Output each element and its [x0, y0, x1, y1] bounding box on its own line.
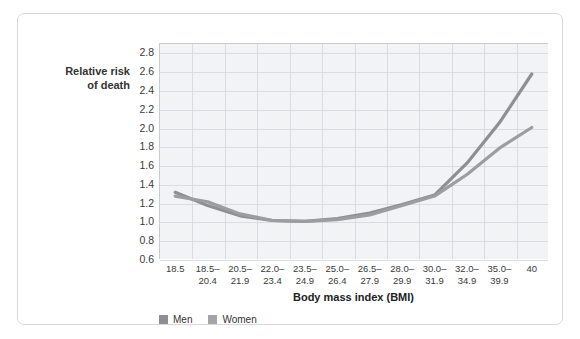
- x-axis-tick-label-line2: 29.9: [390, 275, 414, 287]
- x-axis-tick-label-line2: 20.4: [196, 275, 220, 287]
- x-axis-tick-label-line2: 34.9: [455, 275, 479, 287]
- x-axis-tick-label-line1: 32.0–: [455, 263, 479, 275]
- legend-label: Men: [173, 314, 192, 325]
- x-axis-tick-label-line2: 23.4: [261, 275, 285, 287]
- x-axis-tick-label-line1: 18.5: [166, 263, 185, 275]
- x-axis-tick-label-line2: 27.9: [358, 275, 382, 287]
- x-axis-tick-label-line2: 31.9: [423, 275, 447, 287]
- gridline-horizontal: [160, 260, 548, 261]
- y-axis-tick-label: 1.0: [118, 215, 154, 227]
- x-axis-tick-label-line1: 20.5–: [228, 263, 252, 275]
- x-axis-tick-label: 23.5–24.9: [293, 263, 317, 287]
- x-axis-tick-label: 25.0–26.4: [325, 263, 349, 287]
- y-axis-tick-label: 1.8: [118, 140, 154, 152]
- y-axis-tick-label: 2.4: [118, 84, 154, 96]
- x-axis-tick-label-line1: 23.5–: [293, 263, 317, 275]
- x-axis-tick-label-line1: 18.5–: [196, 263, 220, 275]
- x-axis-tick-label-line1: 25.0–: [325, 263, 349, 275]
- y-axis-tick-label: 2.0: [118, 122, 154, 134]
- x-axis-tick-labels: 18.518.5–20.420.5–21.922.0–23.423.5–24.9…: [159, 263, 548, 293]
- y-axis-tick-label: 2.2: [118, 103, 154, 115]
- chart-card: Relative risk of death 0.60.81.01.21.41.…: [17, 13, 563, 325]
- x-axis-tick-label-line1: 35.0–: [487, 263, 511, 275]
- plot-area: [159, 43, 548, 259]
- x-axis-tick-label-line1: 22.0–: [261, 263, 285, 275]
- x-axis-tick-label-line2: 21.9: [228, 275, 252, 287]
- legend-item-men[interactable]: Men: [159, 314, 192, 325]
- y-axis-tick-label: 0.6: [118, 253, 154, 265]
- series-line-men: [175, 74, 532, 221]
- x-axis-tick-label-line1: 30.0–: [423, 263, 447, 275]
- y-axis-tick-label: 2.6: [118, 65, 154, 77]
- y-axis-tick-label: 1.2: [118, 197, 154, 209]
- x-axis-title: Body mass index (BMI): [159, 291, 548, 303]
- y-axis-tick-label: 0.8: [118, 234, 154, 246]
- x-axis-tick-label-line1: 26.5–: [358, 263, 382, 275]
- x-axis-tick-label-line2: 39.9: [487, 275, 511, 287]
- legend-label: Women: [222, 314, 256, 325]
- x-axis-tick-label: 20.5–21.9: [228, 263, 252, 287]
- series-lines: [159, 43, 548, 259]
- x-axis-tick-label: 30.0–31.9: [423, 263, 447, 287]
- legend-item-women[interactable]: Women: [208, 314, 256, 325]
- legend-swatch-icon: [159, 315, 168, 324]
- x-axis-tick-label: 35.0–39.9: [487, 263, 511, 287]
- x-axis-tick-label: 18.5–20.4: [196, 263, 220, 287]
- series-line-women: [175, 128, 532, 222]
- y-axis-tick-labels: 0.60.81.01.21.41.61.82.02.22.42.62.8: [118, 43, 154, 259]
- legend-swatch-icon: [208, 315, 217, 324]
- y-axis-tick-label: 1.4: [118, 178, 154, 190]
- x-axis-tick-label-line2: 26.4: [325, 275, 349, 287]
- x-axis-tick-label: 32.0–34.9: [455, 263, 479, 287]
- x-axis-tick-label: 22.0–23.4: [261, 263, 285, 287]
- x-axis-tick-label-line2: 24.9: [293, 275, 317, 287]
- x-axis-tick-label-line1: 28.0–: [390, 263, 414, 275]
- x-axis-tick-label-line1: 40: [526, 263, 537, 275]
- x-axis-tick-label: 40: [526, 263, 537, 275]
- y-axis-tick-label: 2.8: [118, 46, 154, 58]
- chart-legend: MenWomen: [159, 314, 257, 325]
- x-axis-tick-label: 26.5–27.9: [358, 263, 382, 287]
- y-axis-tick-label: 1.6: [118, 159, 154, 171]
- x-axis-tick-label: 18.5: [166, 263, 185, 275]
- x-axis-tick-label: 28.0–29.9: [390, 263, 414, 287]
